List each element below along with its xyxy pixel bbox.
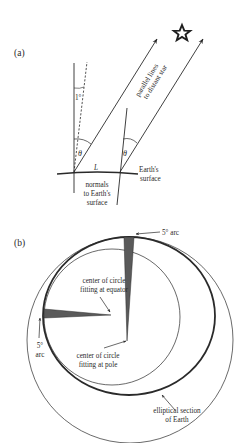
normals-label-line3: surface	[87, 199, 108, 207]
top-arc-pointer	[136, 232, 160, 234]
earth-shape-diagram: (a) 1° θ θ L parallel lines to distant s…	[0, 0, 245, 443]
panel-a: (a) 1° θ θ L parallel lines to distant s…	[14, 25, 203, 207]
equator-center-label-line2: fitting at equator	[80, 286, 129, 294]
theta-right-label: θ	[123, 149, 127, 158]
surface-label-line2: surface	[140, 175, 161, 183]
panel-a-label: (a)	[14, 48, 25, 59]
equator-center-label-line1: center of circle	[82, 277, 125, 285]
equator-wedge	[44, 309, 111, 318]
equator-center-pointer	[100, 297, 110, 312]
earth-surface-curve	[57, 172, 138, 174]
panel-b: (b) 5° arc 5° arc center of circle fitti…	[14, 229, 233, 443]
normals-label-line1: normals	[85, 181, 108, 189]
theta-arc-right	[123, 139, 137, 144]
distance-l-label: L	[93, 164, 98, 172]
one-degree-label: 1°	[75, 94, 82, 102]
surface-label-line1: Earth's	[139, 166, 159, 174]
normals-label-line2: to Earth's	[83, 190, 110, 198]
top-arc-label: 5° arc	[162, 229, 179, 237]
theta-arc-left	[74, 139, 91, 144]
pole-center-pointer	[104, 341, 126, 348]
rays-label: parallel lines to distant star	[134, 59, 169, 103]
left-arc-pointer	[39, 318, 40, 338]
one-degree-arc	[74, 87, 84, 88]
star-icon	[174, 25, 190, 40]
left-ray-arrow	[74, 39, 157, 172]
ellipse-label-line2: of Earth	[165, 416, 189, 424]
ellipse-label-line1: elliptical section	[153, 407, 201, 415]
pole-center-label-line1: center of circle	[76, 352, 119, 360]
panel-b-label: (b)	[14, 238, 25, 249]
theta-left-label: θ	[78, 149, 82, 158]
pole-center-label-line2: fitting at pole	[79, 361, 118, 369]
right-ray-arrow	[120, 39, 203, 172]
left-arc-label-line2: arc	[36, 351, 45, 359]
left-arc-label-line1: 5°	[37, 342, 44, 350]
